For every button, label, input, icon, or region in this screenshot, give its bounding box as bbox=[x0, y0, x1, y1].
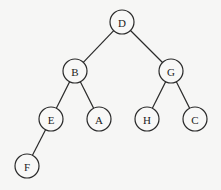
node-label: B bbox=[71, 66, 78, 78]
tree-node-a: A bbox=[87, 107, 111, 131]
tree-node-c: C bbox=[183, 107, 207, 131]
edge-e-f bbox=[32, 130, 45, 156]
node-label: A bbox=[95, 114, 103, 126]
tree-node-e: E bbox=[39, 107, 63, 131]
tree-node-b: B bbox=[63, 59, 87, 83]
tree-node-f: F bbox=[15, 154, 39, 178]
edge-g-c bbox=[176, 82, 189, 109]
node-label: D bbox=[118, 17, 126, 29]
node-label: H bbox=[143, 114, 151, 126]
node-label: E bbox=[48, 114, 55, 126]
tree-node-g: G bbox=[159, 59, 183, 83]
node-label: F bbox=[24, 161, 30, 173]
tree-diagram: DBGEAHCF bbox=[0, 0, 221, 190]
edge-g-h bbox=[152, 82, 165, 109]
edge-b-e bbox=[56, 82, 69, 109]
nodes-layer: DBGEAHCF bbox=[15, 10, 207, 178]
edges-layer bbox=[32, 30, 189, 155]
edge-b-a bbox=[80, 82, 93, 109]
node-label: G bbox=[167, 66, 175, 78]
edge-d-b bbox=[83, 31, 113, 63]
edge-d-g bbox=[130, 30, 162, 62]
tree-node-d: D bbox=[110, 10, 134, 34]
tree-node-h: H bbox=[135, 107, 159, 131]
node-label: C bbox=[191, 114, 198, 126]
